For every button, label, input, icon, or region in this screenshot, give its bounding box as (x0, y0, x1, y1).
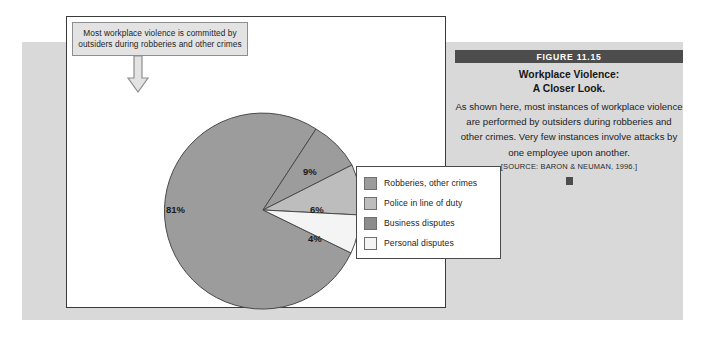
legend-item: Police in line of duty (364, 193, 500, 213)
caption-title-line-1: Workplace Violence: (455, 68, 683, 82)
figure-caption-column: FIGURE 11.15 Workplace Violence: A Close… (455, 50, 683, 185)
caption-title: Workplace Violence: A Closer Look. (455, 68, 683, 96)
down-arrow-icon (126, 56, 150, 94)
pie-label-9: 9% (303, 166, 317, 177)
pie-label-81: 81% (166, 204, 185, 215)
legend-label: Business disputes (384, 218, 455, 228)
callout-line-2: outsiders during robberies and other cri… (78, 39, 242, 51)
caption-title-line-2: A Closer Look. (455, 82, 683, 96)
chart-panel: 81% 9% 6% 4% Robberies, other crimes Pol… (66, 16, 446, 308)
callout-annotation-box: Most workplace violence is committed by … (72, 22, 248, 56)
legend-item: Personal disputes (364, 233, 500, 253)
legend-swatch-business (364, 217, 377, 230)
pie-label-6: 6% (310, 204, 324, 215)
pie-label-4: 4% (308, 233, 322, 244)
figure-number-bar: FIGURE 11.15 (455, 50, 683, 63)
legend-swatch-robberies (364, 177, 377, 190)
legend-swatch-personal (364, 237, 377, 250)
caption-body-text: As shown here, most instances of workpla… (455, 99, 683, 160)
figure-number-label: FIGURE 11.15 (536, 52, 601, 62)
caption-source-line: [SOURCE: BARON & NEUMAN, 1996.] (455, 162, 683, 171)
end-marker-container (455, 177, 683, 185)
legend-swatch-police (364, 197, 377, 210)
callout-line-1: Most workplace violence is committed by (83, 28, 237, 40)
legend-label: Police in line of duty (384, 198, 462, 208)
legend-label: Personal disputes (384, 238, 454, 248)
legend-item: Business disputes (364, 213, 500, 233)
end-of-caption-square-icon (566, 177, 573, 185)
